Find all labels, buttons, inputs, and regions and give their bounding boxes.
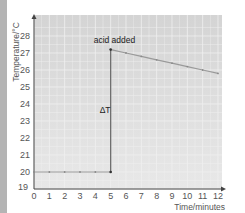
x-tick-label: 10 [182, 191, 192, 201]
x-tick-label: 2 [62, 191, 67, 201]
y-tick-label: 22 [20, 133, 30, 143]
x-tick-labels: 0123456789101112 [31, 191, 223, 201]
x-tick-label: 1 [47, 191, 52, 201]
y-tick-label: 27 [20, 48, 30, 58]
x-tick-label: 9 [169, 191, 174, 201]
data-point [217, 73, 219, 75]
temperature-time-chart: 19202122232425262728 0123456789101112 ac… [0, 0, 245, 213]
y-tick-label: 24 [20, 99, 30, 109]
rise-end-marker [109, 48, 112, 51]
y-tick-label: 19 [18, 182, 28, 192]
x-tick-label: 5 [108, 191, 113, 201]
x-tick-label: 3 [77, 191, 82, 201]
data-point [79, 171, 81, 173]
data-point [64, 171, 66, 173]
x-tick-label: 8 [154, 191, 159, 201]
y-axis-label: Temperature/°C [11, 22, 21, 82]
rise-start-marker [109, 171, 112, 174]
y-tick-label: 28 [20, 31, 30, 41]
data-point [186, 66, 188, 68]
x-tick-label: 4 [93, 191, 98, 201]
x-tick-label: 0 [31, 191, 36, 201]
data-point [33, 171, 35, 173]
data-point [171, 62, 173, 64]
data-point [125, 52, 127, 54]
y-tick-label: 20 [20, 167, 30, 177]
y-tick-label: 23 [20, 116, 30, 126]
x-tick-label: 11 [198, 191, 207, 201]
delta-t-annotation: ΔT [100, 105, 111, 115]
data-point [202, 69, 204, 71]
data-point [94, 171, 96, 173]
x-tick-label: 6 [123, 191, 128, 201]
y-tick-label: 21 [20, 150, 30, 160]
x-tick-label: 7 [139, 191, 144, 201]
x-tick-label: 12 [213, 191, 223, 201]
acid-added-annotation: acid added [94, 35, 136, 45]
data-point [140, 56, 142, 58]
y-tick-label: 26 [20, 65, 30, 75]
y-tick-label: 25 [20, 82, 30, 92]
x-axis-label: Time/minutes [174, 202, 225, 212]
data-point [156, 59, 158, 61]
data-point [48, 171, 50, 173]
